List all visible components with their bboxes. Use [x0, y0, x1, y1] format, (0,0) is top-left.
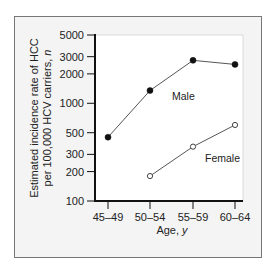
x-tick-label: 45–49 [93, 211, 124, 223]
y-tick-label: 500 [66, 127, 84, 139]
series-label-male: Male [172, 90, 195, 102]
y-axis-title-2: per 100,000 HCV carriers, n [41, 50, 53, 187]
data-point-male [190, 57, 196, 63]
series-label-female: Female [205, 152, 240, 164]
y-tick-label: 3000 [60, 51, 84, 63]
y-tick-label: 5000 [60, 29, 84, 41]
y-tick-label: 200 [66, 166, 84, 178]
x-tick-label: 55–59 [178, 211, 209, 223]
y-tick-label: 2000 [60, 68, 84, 80]
data-point-female [190, 144, 195, 149]
x-tick-label: 50–54 [135, 211, 166, 223]
y-axis-title-italic: n [41, 50, 53, 56]
data-point-male [147, 88, 153, 94]
data-point-female [147, 173, 152, 178]
y-axis-title-line-2: per 100,000 HCV carriers, [41, 56, 53, 187]
data-point-male [105, 134, 111, 140]
y-tick-label: 300 [66, 148, 84, 160]
chart: 1002003005001000200030005000 45–4950–545… [0, 0, 271, 267]
x-axis-title: Age, y [156, 224, 189, 236]
plot-area [95, 35, 243, 201]
y-tick-label: 100 [66, 195, 84, 207]
x-tick-label: 60–64 [220, 211, 251, 223]
data-point-female [232, 122, 237, 127]
x-axis-title-text: Age, [156, 224, 182, 236]
y-axis-title-line-1: Estimated incidence rate of HCC [28, 38, 40, 198]
y-axis-title: Estimated incidence rate of HCC [28, 38, 40, 198]
data-point-male [232, 61, 238, 67]
y-tick-label: 1000 [60, 97, 84, 109]
